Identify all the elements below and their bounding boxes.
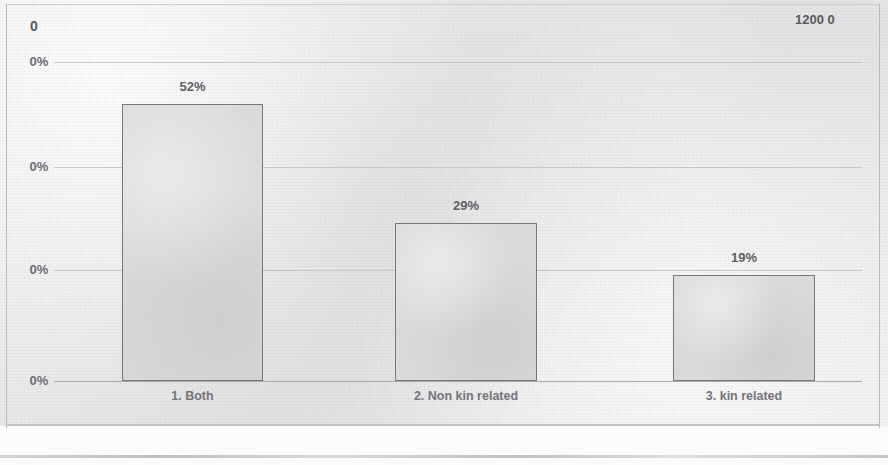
bar-non-kin-related[interactable]: [395, 223, 537, 381]
bar-kin-related[interactable]: [673, 275, 815, 381]
x-axis-category-label-both: 1. Both: [112, 389, 273, 403]
gridline-60: [54, 62, 862, 63]
y-axis-tick-label-40: 0%: [0, 159, 48, 174]
x-axis-category-label-non-kin-related: 2. Non kin related: [376, 389, 556, 403]
top-left-corner-text: 0: [30, 18, 38, 34]
bar-value-label-both: 52%: [122, 79, 263, 94]
scanner-edge-artifact: [0, 455, 888, 458]
chart-figure: 0 1200 0 0% 0% 0% 0% 52% 29% 19% 1. Both…: [0, 0, 888, 465]
y-axis-tick-label-20: 0%: [0, 262, 48, 277]
axis-baseline: [54, 381, 862, 382]
bar-both[interactable]: [122, 104, 263, 381]
plot-area: 0 1200 0 0% 0% 0% 0% 52% 29% 19% 1. Both…: [0, 0, 888, 465]
bar-value-label-non-kin-related: 29%: [395, 198, 537, 213]
bar-value-label-kin-related: 19%: [673, 250, 815, 265]
y-axis-tick-label-60: 0%: [0, 54, 48, 69]
y-axis-tick-label-0: 0%: [0, 373, 48, 388]
x-axis-category-label-kin-related: 3. kin related: [654, 389, 834, 403]
top-right-corner-text: 1200 0: [795, 12, 835, 27]
